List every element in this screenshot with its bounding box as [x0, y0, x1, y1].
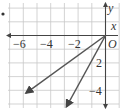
x-tick-label-neg2: −2 — [68, 37, 81, 51]
y-tick-label-neg4: −4 — [89, 84, 102, 98]
y-axis-label: y — [107, 1, 114, 15]
bullet-icon — [1, 12, 4, 15]
coordinate-graph: y x O −6 −4 −2 2 −4 — [0, 0, 121, 110]
y-tick-label-neg2: 2 — [96, 56, 102, 70]
origin-label: O — [108, 37, 117, 51]
x-axis-label: x — [110, 19, 117, 33]
graph-canvas: y x O −6 −4 −2 2 −4 — [0, 0, 121, 110]
x-tick-label-neg4: −4 — [40, 37, 53, 51]
x-tick-label-neg6: −6 — [13, 37, 26, 51]
grid — [8, 3, 119, 108]
